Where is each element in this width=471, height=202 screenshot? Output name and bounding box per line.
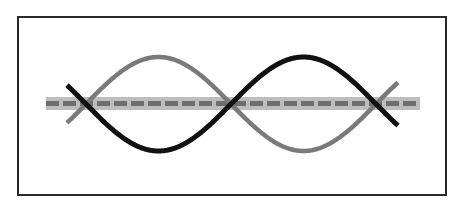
standing-wave-diagram: [0, 0, 471, 202]
